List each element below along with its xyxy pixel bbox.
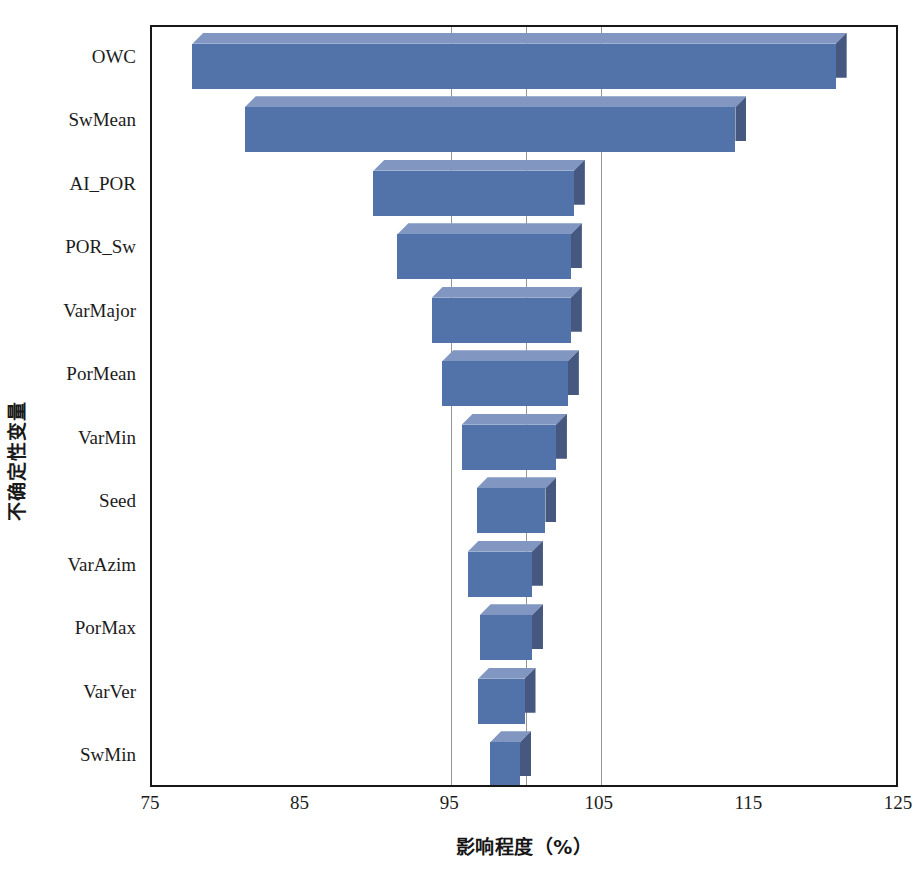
x-tick-label-75: 75 [141,792,160,814]
x-axis-tick-labels: 758595105115125 [150,792,898,820]
bar-front-face [373,171,573,216]
bar-pormax [480,604,543,660]
bar-front-face [245,107,736,152]
bar-top-face [480,604,543,615]
bar-front-face [397,234,571,279]
bar-top-face [442,350,579,361]
y-axis-title: 不确定性变量 [0,330,30,590]
bar-front-face [468,552,532,597]
bar-front-face [432,298,571,343]
bar-varver [478,668,535,724]
bar-top-face [397,223,582,234]
bar-swmin [490,731,531,785]
bar-front-face [442,361,568,406]
bar-varmin [462,414,567,470]
bar-seed [477,477,557,533]
bar-top-face [462,414,567,425]
y-tick-label-pormax: PorMax [75,618,136,638]
bar-top-face [373,160,584,171]
y-tick-label-varmajor: VarMajor [63,301,136,321]
bar-front-face [478,679,524,724]
bar-pormean [442,350,579,406]
x-tick-label-115: 115 [734,792,762,814]
bar-front-face [477,488,546,533]
bar-varazim [468,541,543,597]
bar-front-face [490,742,520,785]
bar-front-face [192,44,835,89]
x-tick-label-125: 125 [884,792,913,814]
plot-area [150,25,898,787]
bar-top-face [192,33,846,44]
bar-varmajor [432,287,582,343]
y-tick-label-pormean: PorMean [66,364,136,384]
y-axis-tick-labels: OWCSwMeanAI_PORPOR_SwVarMajorPorMeanVarM… [36,25,144,787]
x-tick-label-105: 105 [585,792,614,814]
bar-front-face [462,425,556,470]
y-tick-label-swmean: SwMean [68,110,136,130]
bar-swmean [245,96,747,152]
bar-top-face [477,477,557,488]
y-tick-label-swmin: SwMin [80,745,136,765]
x-tick-label-85: 85 [290,792,309,814]
bar-owc [192,33,846,89]
y-tick-label-por_sw: POR_Sw [65,237,136,257]
x-axis-title: 影响程度（%） [150,832,898,859]
bar-por_sw [397,223,582,279]
bar-top-face [468,541,543,552]
y-tick-label-owc: OWC [92,47,136,67]
x-tick-label-95: 95 [440,792,459,814]
y-tick-label-varver: VarVer [83,682,136,702]
y-tick-label-varazim: VarAzim [67,555,136,575]
bar-front-face [480,615,532,660]
bar-top-face [432,287,582,298]
plot-inner [152,27,896,785]
tornado-chart-figure: 不确定性变量 OWCSwMeanAI_PORPOR_SwVarMajorPorM… [0,0,921,884]
y-tick-label-ai_por: AI_POR [69,174,136,194]
y-axis-title-text: 不确定性变量 [2,400,29,520]
bar-ai_por [373,160,584,216]
y-tick-label-seed: Seed [99,491,136,511]
y-tick-label-varmin: VarMin [78,428,136,448]
bar-top-face [245,96,747,107]
